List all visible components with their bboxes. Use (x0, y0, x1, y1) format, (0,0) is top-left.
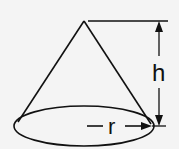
cone-figure: h r (0, 0, 179, 149)
cone-diagram: h r (0, 0, 179, 149)
radius-label: r (108, 114, 115, 139)
height-arrow-down-head (155, 115, 163, 126)
height-label: h (152, 59, 165, 86)
height-arrow-up-head (155, 21, 163, 32)
